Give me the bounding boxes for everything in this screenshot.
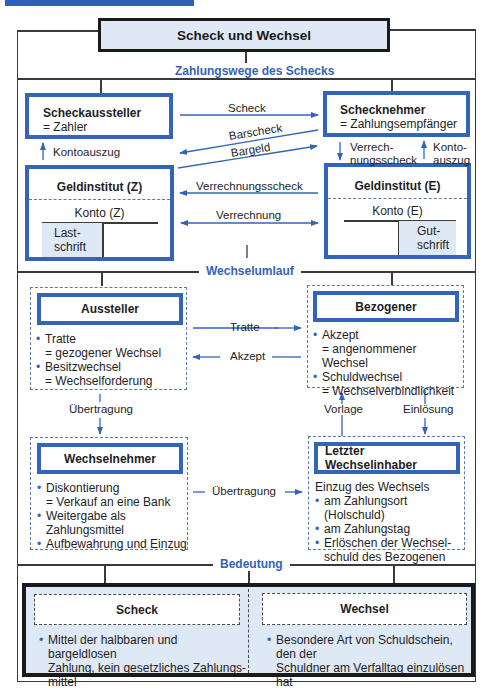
arrow-label-akzept: Akzept [230, 350, 265, 362]
list-item: Aufbewahrung und Einzug [46, 537, 187, 551]
wechselnehmer-title: Wechselnehmer [64, 452, 156, 466]
list-item-sub: = angenommener Wechsel [322, 342, 463, 370]
list-item-sub: Zahlungsmittel [46, 523, 187, 537]
bedeutung-scheck-text: Mittel der halbbaren und bargeldlosen Za… [48, 633, 248, 689]
aussteller-group: Aussteller Tratte = gezogener Wechsel Be… [30, 287, 187, 390]
bezogener-box: Bezogener [313, 291, 459, 322]
arrow-label-uebertragung-right: Übertragung [212, 485, 276, 497]
letzter-wechselinhaber-box: Letzter Wechselinhaber [314, 442, 460, 474]
arrow-label-tratte: Tratte [230, 321, 260, 333]
aussteller-list: Tratte = gezogener Wechsel Besitzwechsel… [45, 332, 161, 388]
arrow-label-line: Konto- [433, 141, 470, 154]
bezogener-list: Akzept = angenommener Wechsel Schuldwech… [322, 328, 463, 398]
list-item-main: Diskontierung [46, 481, 119, 495]
list-item-main: Besondere Art von Schuldschein, den der [276, 633, 453, 661]
list-item-main: am Zahlungstag [324, 522, 410, 536]
list-item-sub: Schuldner am Verfalltag einzulösen hat [276, 661, 476, 689]
list-item: Mittel der halbbaren und bargeldlosen [48, 633, 248, 661]
arrow-label-line: nungsscheck [350, 154, 417, 167]
bedeutung-wechsel-title: Wechsel [340, 602, 388, 616]
letzter-wechselinhaber-group: Letzter Wechselinhaber Einzug des Wechse… [308, 436, 465, 550]
arrow-label-kontoauszug: Kontoauszug [53, 146, 120, 158]
list-item-main: Erlöschen der Wechsel- [324, 536, 451, 550]
arrow-label-verrechnung: Verrechnung [216, 209, 281, 221]
list-item-sub: schuld des Bezogenen [324, 550, 464, 564]
bedeutung-scheck-title: Scheck [116, 603, 158, 617]
section-label-bedeutung: Bedeutung [213, 557, 290, 571]
section-label-wechselumlauf: Wechselumlauf [199, 264, 301, 278]
arrow-label-vorlage: Vorlage [324, 403, 363, 415]
list-item-sub: mittel [48, 675, 248, 689]
bedeutung-scheck-box: Scheck [34, 594, 240, 625]
letzter-list: am Zahlungsort (Holschuld) am Zahlungsta… [324, 494, 464, 564]
connector-line [391, 271, 393, 285]
wechselnehmer-group: Wechselnehmer Diskontierung = Verkauf an… [30, 437, 188, 550]
connector-line [393, 564, 395, 584]
list-item-sub: = Wechselverbindlichkeit [322, 384, 463, 398]
bezogener-title: Bezogener [355, 300, 416, 314]
list-item: Besondere Art von Schuldschein, den der [276, 633, 476, 661]
bedeutung-wechsel-text: Besondere Art von Schuldschein, den der … [276, 633, 476, 689]
aussteller-title: Aussteller [81, 302, 139, 316]
list-item: Weitergabe als [46, 509, 187, 523]
list-item-main: Akzept [322, 328, 359, 342]
list-item: Schuldwechsel [322, 370, 463, 384]
bedeutung-panel: Scheck Mittel der halbbaren und bargeldl… [22, 583, 475, 677]
connector-line [104, 564, 106, 584]
list-item: Erlöschen der Wechsel- [324, 536, 464, 550]
list-item: am Zahlungsort (Holschuld) [324, 494, 464, 522]
list-item-sub: Zahlung, kein gesetzliches Zahlungs- [48, 661, 248, 675]
wechselnehmer-box: Wechselnehmer [37, 443, 183, 474]
list-item-main: Tratte [45, 332, 76, 346]
list-item: am Zahlungstag [324, 522, 464, 536]
list-item: Besitzwechsel [45, 360, 161, 374]
list-item-main: am Zahlungsort (Holschuld) [324, 494, 407, 522]
bedeutung-divider [248, 589, 249, 673]
list-item-sub: = Verkauf an eine Bank [46, 495, 187, 509]
connector-line [101, 271, 103, 286]
list-item: Tratte [45, 332, 161, 346]
list-item-main: Aufbewahrung und Einzug [46, 537, 187, 551]
list-item: Akzept [322, 328, 463, 342]
arrow-label-uebertragung-down: Übertragung [69, 403, 133, 415]
arrow-label-kontoauszug-right: Konto- auszug [433, 141, 470, 167]
list-item-main: Besitzwechsel [45, 360, 121, 374]
list-item-main: Schuldwechsel [322, 370, 402, 384]
arrow-label-scheck: Scheck [228, 102, 266, 114]
letzter-wechselinhaber-title: Letzter Wechselinhaber [325, 444, 456, 472]
bezogener-group: Bezogener Akzept = angenommener Wechsel … [307, 285, 464, 388]
list-item-sub: = Wechselforderung [45, 374, 161, 388]
arrow-label-line: Verrech- [350, 141, 417, 154]
list-item-main: Weitergabe als [46, 509, 126, 523]
list-item-sub: = gezogener Wechsel [45, 346, 161, 360]
list-item-main: Mittel der halbbaren und bargeldlosen [48, 633, 177, 661]
bedeutung-wechsel-box: Wechsel [262, 593, 467, 625]
arrow-label-line: auszug [433, 154, 470, 167]
arrow-label-einloesung: Einlösung [403, 403, 454, 415]
aussteller-box: Aussteller [37, 293, 183, 325]
list-item: Diskontierung [46, 481, 187, 495]
letzter-intro: Einzug des Wechsels [315, 480, 430, 494]
arrow-label-verrechnungsscheck: Verrechnungsscheck [196, 180, 303, 192]
wechselnehmer-list: Diskontierung = Verkauf an eine Bank Wei… [46, 481, 187, 551]
arrow-label-verrechnungsscheck-vertical: Verrech- nungsscheck [350, 141, 417, 167]
